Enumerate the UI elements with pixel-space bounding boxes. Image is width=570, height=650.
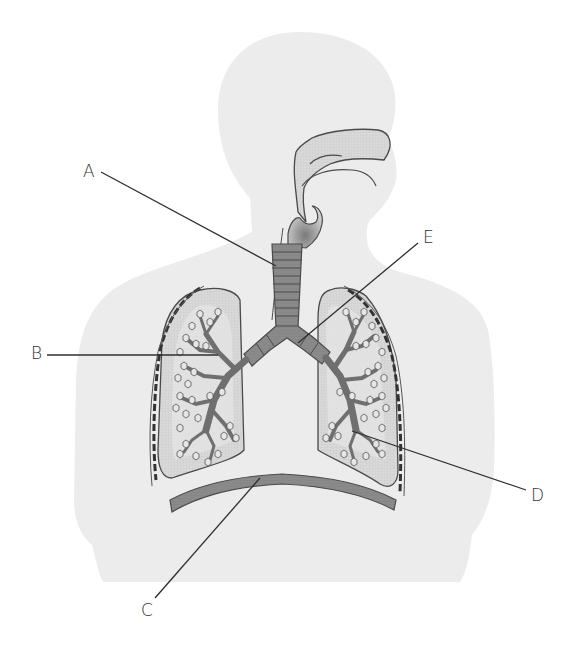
respiratory-system-diagram <box>0 0 570 650</box>
label-a: A <box>83 163 95 180</box>
label-b: B <box>31 345 42 362</box>
trachea <box>272 244 302 328</box>
label-e: E <box>423 229 434 246</box>
label-c: C <box>141 602 153 619</box>
label-d: D <box>531 487 544 504</box>
